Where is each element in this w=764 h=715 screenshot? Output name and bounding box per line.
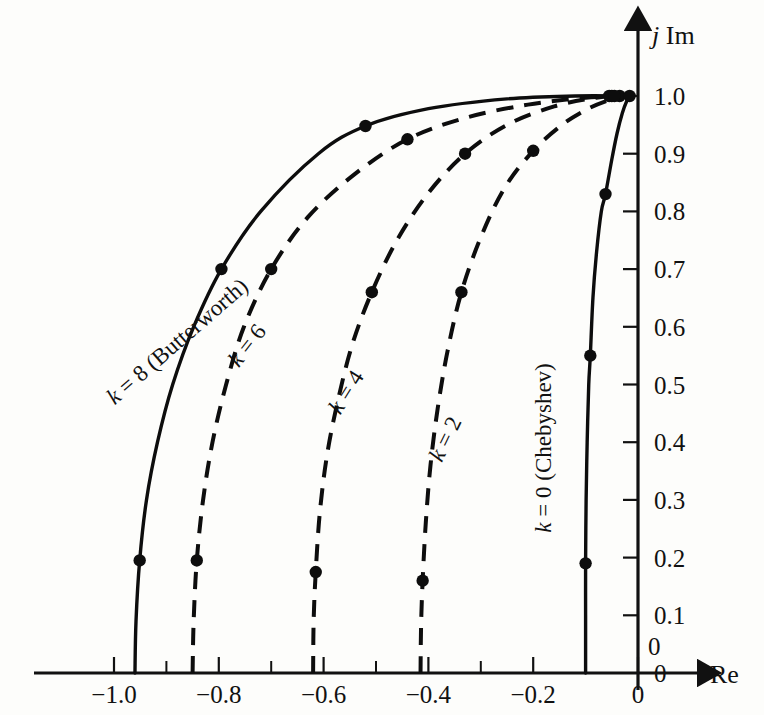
origin-zero-label: 0 [648,633,661,660]
y-tick-label: 0.1 [654,602,685,629]
pole-dot [455,286,467,298]
pole-dot [608,90,620,102]
pole-dot [133,554,145,566]
x-axis-label: Re [710,660,739,689]
x-tick-label: 0 [632,681,645,708]
pole-points-group [133,90,635,587]
pole-dot [366,286,378,298]
pole-dot [623,90,635,102]
pole-dot [359,120,371,132]
plot-canvas: −1.0−0.8−0.6−0.4−0.20 1.00.90.80.70.60.5… [0,0,764,715]
x-tick-label: −0.2 [511,681,556,708]
x-tick-label: −0.4 [406,681,452,708]
x-ticks-group: −1.0−0.8−0.6−0.4−0.20 [91,657,644,708]
y-tick-label: 0.4 [654,429,686,456]
pole-locus-figure: −1.0−0.8−0.6−0.4−0.20 1.00.90.80.70.60.5… [0,0,764,715]
y-tick-label: 0.8 [654,198,685,225]
y-axis-label: j Im [649,21,695,50]
curve-k-2 [421,96,625,673]
pole-dot [265,263,277,275]
y-tick-label: 1.0 [654,83,685,110]
y-tick-label: 0.2 [654,545,685,572]
pole-dot [527,145,539,157]
pole-dot [191,554,203,566]
pole-dot [310,566,322,578]
curve-label-k-2: k = 2 [424,413,467,465]
y-tick-label: 0.7 [654,256,685,283]
pole-dot [459,148,471,160]
curve-k-6 [193,96,623,673]
y-axis-label-j: j [649,21,659,50]
pole-dot [401,133,413,145]
curve-label-k-8: k = 8 (Butterworth) [102,273,253,409]
y-ticks-group: 1.00.90.80.70.60.50.40.30.20.10 [623,83,686,687]
y-axis-label-im: Im [659,21,694,50]
x-tick-label: −0.8 [196,681,241,708]
x-tick-label: −1.0 [91,681,136,708]
y-tick-label: 0.5 [654,372,685,399]
y-tick-label: 0 [654,660,667,687]
y-tick-label: 0.6 [654,314,685,341]
pole-dot [215,263,227,275]
pole-dot [579,557,591,569]
x-tick-label: −0.6 [301,681,346,708]
pole-dot [599,188,611,200]
curve-label-k-0: k = 0 (Chebyshev) [531,363,556,532]
curve-label-k-4: k = 4 [323,365,369,418]
curve-labels-group: k = 8 (Butterworth)k = 6k = 4k = 2k = 0 … [102,273,557,532]
y-tick-label: 0.9 [654,141,685,168]
pole-dot [416,574,428,586]
pole-dot [584,349,596,361]
y-tick-label: 0.3 [654,487,685,514]
